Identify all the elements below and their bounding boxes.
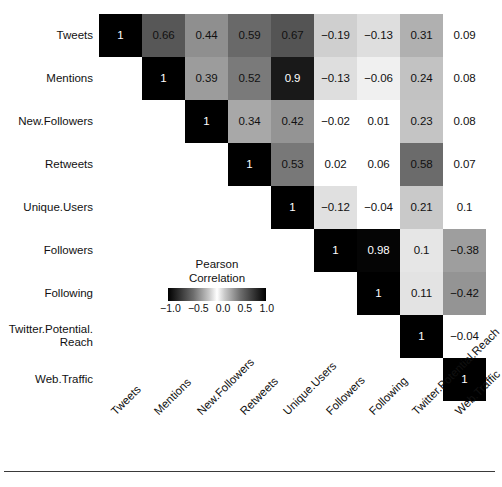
heatmap-cell: 0.23 [400, 100, 443, 143]
heatmap-cell: −0.13 [357, 14, 400, 57]
legend-tick: 0.5 [238, 302, 253, 314]
row-label: Mentions [0, 72, 93, 85]
heatmap-cell: 0.9 [271, 57, 314, 100]
heatmap-cell: 0.58 [400, 143, 443, 186]
heatmap-cell: 1 [271, 186, 314, 229]
row-label: Retweets [0, 158, 93, 171]
legend-tick: 0.0 [216, 302, 231, 314]
heatmap-cell: 1 [185, 100, 228, 143]
legend-tick-labels: −1.0−0.50.00.51.0 [160, 302, 274, 314]
heatmap-cell: 0.34 [228, 100, 271, 143]
legend-tick: −0.5 [188, 302, 209, 314]
row-label: Web.Traffic [0, 373, 93, 386]
column-label: Tweets [108, 383, 142, 417]
legend-title-line1: Pearson [196, 258, 239, 270]
bottom-rule [4, 471, 495, 472]
heatmap-cell: 0.11 [400, 272, 443, 315]
column-label: Mentions [151, 376, 192, 417]
row-label: New.Followers [0, 115, 93, 128]
row-label: Tweets [0, 29, 93, 42]
heatmap-cell: 0.1 [400, 229, 443, 272]
heatmap-cell: 1 [314, 229, 357, 272]
heatmap-cell: 1 [400, 315, 443, 358]
legend-tick: 1.0 [259, 302, 274, 314]
heatmap-cell: 0.44 [185, 14, 228, 57]
heatmap-cell: −0.42 [443, 272, 486, 315]
heatmap-cell: 0.39 [185, 57, 228, 100]
row-label: Followers [0, 244, 93, 257]
legend-gradient-bar [168, 288, 266, 301]
heatmap-cell: 1 [142, 57, 185, 100]
heatmap-cell: 0.59 [228, 14, 271, 57]
heatmap-cell: −0.12 [314, 186, 357, 229]
heatmap-cell: 0.08 [443, 100, 486, 143]
heatmap-cell: 0.06 [357, 143, 400, 186]
heatmap-cell: 0.53 [271, 143, 314, 186]
heatmap-cell: 0.09 [443, 14, 486, 57]
heatmap-cell: −0.02 [314, 100, 357, 143]
heatmap-cell: 0.24 [400, 57, 443, 100]
heatmap-cell: 0.31 [400, 14, 443, 57]
row-label: Twitter.Potential. Reach [0, 323, 93, 349]
column-label: Following [366, 374, 409, 417]
heatmap-cell: −0.19 [314, 14, 357, 57]
legend-title: Pearson Correlation [151, 258, 283, 285]
color-legend: Pearson Correlation −1.0−0.50.00.51.0 [151, 258, 283, 314]
heatmap-cell: 0.98 [357, 229, 400, 272]
heatmap-cell: 1 [99, 14, 142, 57]
legend-title-line2: Correlation [189, 272, 245, 284]
column-label: Retweets [237, 375, 279, 417]
heatmap-cell: 0.52 [228, 57, 271, 100]
heatmap-cell: −0.04 [357, 186, 400, 229]
heatmap-cell: −0.06 [357, 57, 400, 100]
heatmap-cell: 0.42 [271, 100, 314, 143]
heatmap-cell: 0.1 [443, 186, 486, 229]
row-label: Following [0, 287, 93, 300]
heatmap-cell: 1 [228, 143, 271, 186]
heatmap-cell: 0.66 [142, 14, 185, 57]
heatmap-cell: 0.07 [443, 143, 486, 186]
column-label: Followers [323, 374, 366, 417]
heatmap-cell: 0.21 [400, 186, 443, 229]
heatmap-cell: 0.08 [443, 57, 486, 100]
heatmap-cell: 0.02 [314, 143, 357, 186]
heatmap-cell: 1 [357, 272, 400, 315]
heatmap-cell: −0.38 [443, 229, 486, 272]
heatmap-cell: −0.13 [314, 57, 357, 100]
heatmap-cell: 0.01 [357, 100, 400, 143]
row-label: Unique.Users [0, 201, 93, 214]
heatmap-cell: 0.67 [271, 14, 314, 57]
legend-tick: −1.0 [160, 302, 181, 314]
